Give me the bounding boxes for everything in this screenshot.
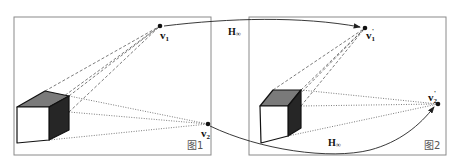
vanishing-lines-v2-prime [288, 90, 438, 136]
cube-front-face [17, 107, 49, 143]
caption-figure-1: 图1 [187, 140, 203, 151]
cube-right [260, 90, 301, 143]
cube-left [17, 91, 69, 143]
vanishing-lines-v2 [49, 96, 208, 140]
label-h-inf-top: H∞ [228, 26, 241, 38]
point-v2 [206, 122, 211, 127]
label-v2-prime: v2' [428, 89, 438, 105]
label-v1-prime: v1' [366, 27, 376, 43]
homography-diagram: v1 v2 v1' v2' H∞ H∞ 图1 图2 [0, 0, 458, 165]
caption-figure-2: 图2 [424, 140, 440, 151]
diagram-canvas: v1 v2 v1' v2' H∞ H∞ 图1 图2 [0, 0, 458, 165]
label-v1: v1 [160, 29, 170, 43]
cube-front-face [260, 106, 288, 143]
label-h-inf-bottom: H∞ [328, 137, 341, 149]
mapping-curve-v2 [210, 107, 434, 154]
mapping-curve-v1 [164, 19, 360, 27]
label-v2: v2 [201, 127, 211, 141]
point-v1 [158, 24, 163, 29]
